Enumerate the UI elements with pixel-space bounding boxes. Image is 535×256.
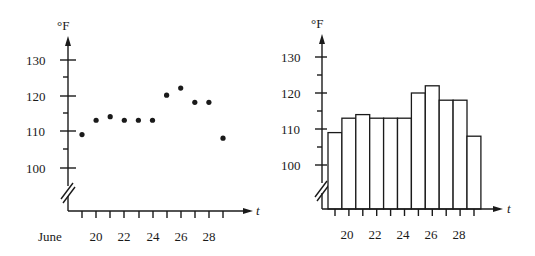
x-prefix-label-june: June [38, 229, 62, 244]
y-tick-label: 130 [26, 53, 46, 68]
bar [384, 118, 398, 209]
x-tick-label: 26 [175, 229, 189, 244]
x-tick-label: 20 [341, 227, 354, 242]
y-ticks [315, 57, 327, 165]
x-tick-label: 26 [425, 227, 439, 242]
data-point [206, 100, 211, 105]
y-axis-label: °F [311, 16, 323, 31]
x-tick-label: 24 [397, 227, 411, 242]
bar [342, 118, 356, 209]
x-axis-label: t [256, 203, 260, 218]
data-point [136, 118, 141, 123]
y-tick-label: 110 [26, 124, 45, 139]
data-point [94, 118, 99, 123]
x-tick-label: 28 [203, 229, 216, 244]
y-tick-label: 100 [281, 158, 301, 173]
data-point [192, 100, 197, 105]
data-point [108, 114, 113, 119]
x-axis-arrow-icon [243, 208, 253, 214]
bar [356, 115, 370, 209]
y-tick-label: 130 [281, 50, 301, 65]
bar [370, 118, 384, 209]
bar [425, 86, 439, 209]
y-axis-label: °F [57, 18, 69, 33]
x-tick-label: 20 [90, 229, 103, 244]
x-tick-label: 22 [118, 229, 131, 244]
y-tick-label: 120 [281, 86, 301, 101]
bar [411, 93, 425, 209]
y-tick-label: 100 [26, 161, 46, 176]
data-point [79, 132, 84, 137]
x-tick-label: 22 [369, 227, 382, 242]
x-ticks [335, 209, 474, 216]
y-axis-arrow-icon [65, 36, 71, 46]
scatter-chart: °F 130 120 110 100 t [26, 18, 260, 244]
bar [439, 100, 453, 209]
bar [453, 100, 467, 209]
x-axis-label: t [507, 201, 511, 216]
figure: °F 130 120 110 100 t [0, 0, 535, 256]
bar [467, 136, 481, 209]
data-point [178, 85, 183, 90]
data-points [79, 85, 225, 140]
y-tick-label: 120 [26, 89, 46, 104]
bar-chart: °F 130 120 110 100 t 20 22 24 26 28 [281, 16, 511, 242]
data-point [122, 118, 127, 123]
x-tick-label: 28 [453, 227, 466, 242]
bar [398, 118, 412, 209]
data-point [220, 136, 225, 141]
data-point [150, 118, 155, 123]
x-tick-label: 24 [147, 229, 161, 244]
bar [328, 133, 342, 209]
x-ticks [82, 211, 223, 218]
bars [328, 86, 481, 209]
data-point [164, 93, 169, 98]
x-axis-arrow-icon [493, 206, 503, 212]
y-tick-label: 110 [281, 122, 300, 137]
y-axis-arrow-icon [319, 34, 325, 44]
